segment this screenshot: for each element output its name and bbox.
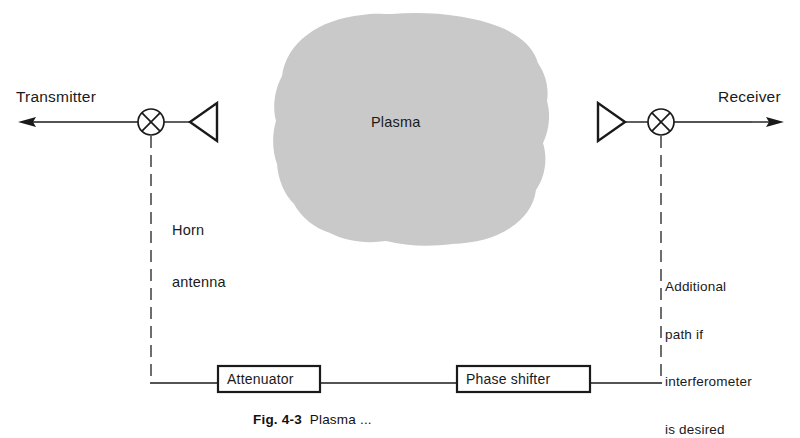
mixer-left	[138, 109, 164, 135]
additional-path-annotation-line3: interferometer	[665, 374, 752, 390]
horn-antenna-annotation-line1: Horn	[172, 222, 226, 239]
receiver-label: Receiver	[718, 88, 781, 106]
attenuator-label: Attenuator	[227, 371, 294, 388]
additional-path-annotation: Additional path if interferometer is des…	[665, 247, 752, 438]
horn-antenna-left	[190, 103, 217, 141]
figure-caption-text: Plasma ...	[302, 412, 372, 427]
plasma-label: Plasma	[371, 114, 421, 131]
horn-antenna-right	[598, 103, 625, 141]
additional-path-annotation-line4: is desired	[665, 422, 752, 438]
transmitter-label: Transmitter	[16, 88, 96, 106]
horn-antenna-annotation: Horn antenna	[172, 188, 226, 325]
additional-path-annotation-line2: path if	[665, 327, 752, 343]
figure-caption: Fig. 4-3 Plasma ...	[253, 412, 372, 428]
mixer-right	[648, 109, 674, 135]
phase-shifter-label: Phase shifter	[466, 371, 550, 388]
figure-caption-number: Fig. 4-3	[253, 412, 302, 427]
additional-path-annotation-line1: Additional	[665, 279, 752, 295]
horn-antenna-annotation-line2: antenna	[172, 274, 226, 291]
